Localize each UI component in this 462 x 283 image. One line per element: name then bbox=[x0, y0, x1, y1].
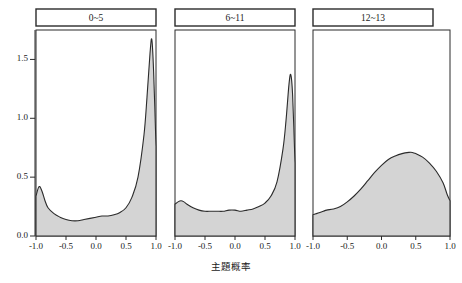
x-tick-label: -1.0 bbox=[306, 241, 321, 251]
panel-1: -1.0-0.50.00.51.0 bbox=[168, 30, 301, 251]
x-tick-label: -1.0 bbox=[29, 241, 44, 251]
x-tick-label: 0.0 bbox=[90, 241, 102, 251]
y-tick-label: 0.0 bbox=[17, 230, 29, 240]
panel-header-1: 6~11 bbox=[175, 9, 295, 26]
x-axis-title: 主題概率 bbox=[211, 261, 251, 272]
x-tick-label: 0.5 bbox=[259, 241, 271, 251]
density-area bbox=[313, 152, 450, 236]
chart-svg: 0~5 6~11 12~13 0.00.51.01.5 -1.0-0.50.00… bbox=[0, 0, 462, 283]
y-tick-label: 1.5 bbox=[17, 53, 29, 63]
panel-title-0: 0~5 bbox=[89, 13, 104, 23]
y-tick-group: 0.00.51.01.5 bbox=[17, 53, 35, 240]
panel-0: -1.0-0.50.00.51.0 bbox=[29, 30, 162, 251]
panel-group: -1.0-0.50.00.51.0-1.0-0.50.00.51.0-1.0-0… bbox=[29, 30, 456, 251]
x-tick-label: 1.0 bbox=[150, 241, 162, 251]
panel-title-1: 6~11 bbox=[225, 13, 244, 23]
x-tick-label: 1.0 bbox=[444, 241, 456, 251]
density-area bbox=[175, 74, 295, 236]
density-area bbox=[36, 39, 156, 236]
x-tick-label: -0.5 bbox=[59, 241, 74, 251]
y-tick-label: 1.0 bbox=[17, 112, 29, 122]
x-tick-label: -0.5 bbox=[340, 241, 355, 251]
y-axis: 0.00.51.01.5 bbox=[17, 30, 35, 240]
x-tick-label: -0.5 bbox=[198, 241, 213, 251]
x-tick-label: 0.0 bbox=[229, 241, 241, 251]
x-tick-label: 0.5 bbox=[410, 241, 422, 251]
x-tick-label: 1.0 bbox=[289, 241, 301, 251]
panel-title-2: 12~13 bbox=[361, 13, 385, 23]
x-tick-label: 0.0 bbox=[376, 241, 388, 251]
x-tick-label: 0.5 bbox=[120, 241, 132, 251]
panel-2: -1.0-0.50.00.51.0 bbox=[306, 30, 456, 251]
density-facet-chart: 0~5 6~11 12~13 0.00.51.01.5 -1.0-0.50.00… bbox=[0, 0, 462, 283]
x-tick-label: -1.0 bbox=[168, 241, 183, 251]
y-tick-label: 0.5 bbox=[17, 171, 29, 181]
panel-header-2: 12~13 bbox=[313, 9, 433, 26]
panel-header-0: 0~5 bbox=[36, 9, 156, 26]
